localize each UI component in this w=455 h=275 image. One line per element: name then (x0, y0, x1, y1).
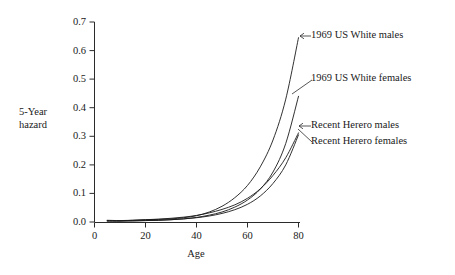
y-tick-marks (90, 22, 95, 222)
x-tick-label-4: 80 (285, 230, 313, 241)
y-axis-title-line2: hazard (19, 119, 47, 130)
y-tick-label-3: 0.3 (58, 130, 86, 141)
x-tick-label-3: 60 (234, 230, 262, 241)
x-tick-label-2: 40 (183, 230, 211, 241)
series-line-0 (107, 38, 298, 221)
y-tick-label-4: 0.4 (58, 102, 86, 113)
x-axis-title: Age (176, 248, 216, 259)
y-axis-title: 5-Yearhazard (8, 105, 58, 131)
series-label-1: 1969 US White females (311, 72, 411, 83)
axes-group (90, 22, 301, 228)
series-label-0: 1969 US White males (311, 29, 403, 40)
series-label-3: Recent Herero females (311, 135, 407, 146)
series-label-2: Recent Herero males (311, 119, 399, 130)
y-tick-label-5: 0.5 (58, 73, 86, 84)
y-axis-title-line1: 5-Year (19, 106, 47, 117)
chart-figure: 0.0 0.1 0.2 0.3 0.4 0.5 0.6 0.7 0 20 40 … (0, 0, 455, 275)
series-line-1 (107, 96, 298, 221)
leader-line-3 (298, 129, 312, 142)
y-tick-label-2: 0.2 (58, 159, 86, 170)
leader-line-1 (292, 80, 312, 94)
x-tick-marks (95, 223, 299, 228)
series-lines (107, 38, 298, 221)
y-tick-label-1: 0.1 (58, 187, 86, 198)
x-tick-label-0: 0 (81, 230, 109, 241)
y-tick-label-0: 0.0 (58, 216, 86, 227)
y-tick-label-7: 0.7 (58, 16, 86, 27)
x-tick-label-1: 20 (132, 230, 160, 241)
y-tick-label-6: 0.6 (58, 45, 86, 56)
annotation-leaders (292, 33, 312, 142)
